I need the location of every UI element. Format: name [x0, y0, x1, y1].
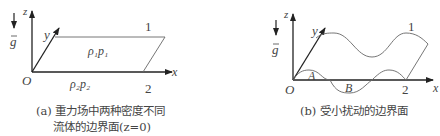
fluid-1-label: 1 [408, 19, 415, 34]
caption-a-line1: (a) 重力场中两种密度不同 [36, 103, 166, 119]
x-axis-label: x [171, 65, 178, 79]
fluid-2-label: 2 [402, 82, 409, 97]
fluid-2-label: 2 [145, 81, 152, 96]
caption-a-line2: 流体的边界面(z=0) [53, 119, 151, 135]
origin-label: O [285, 82, 295, 97]
gravity-label: g [272, 42, 279, 57]
y-axis-label: y [42, 27, 50, 42]
y-axis-label: y [310, 23, 318, 38]
z-axis-label: z [22, 5, 28, 17]
fluid-1-label: 1 [145, 19, 152, 34]
surface-side-edge [406, 44, 428, 80]
lower-fluid-density-label: ρ₂p₂ [69, 77, 90, 91]
x-axis-label: x [432, 81, 439, 95]
gravity-label: g [10, 34, 17, 49]
z-axis-label: z [283, 8, 289, 20]
point-b-label: B [345, 81, 353, 95]
panel-a: g z y x O ρ₁p₁ ρ₂p₂ 1 2 [10, 5, 178, 96]
point-a-label: A [307, 69, 316, 83]
panel-b: g z y x O A B 1 2 [272, 8, 439, 97]
upper-fluid-density-label: ρ₁p₁ [87, 44, 108, 58]
interface-plane [55, 37, 165, 72]
caption-b: (b) 受小扰动的边界面 [300, 103, 408, 119]
origin-label: O [22, 73, 32, 88]
perturbed-surface-far-edge [316, 33, 428, 57]
